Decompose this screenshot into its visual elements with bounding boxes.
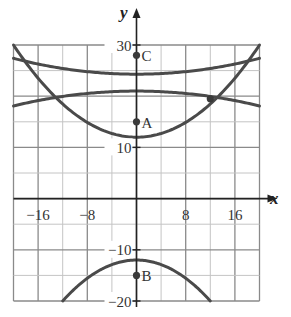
point-label-C: C (142, 48, 152, 64)
y-axis-arrow-icon (133, 8, 141, 18)
x-tick-label: 8 (182, 207, 190, 223)
chart: −16−88163010−10−20 CAB x y (0, 0, 291, 317)
y-tick-label: 10 (117, 140, 132, 156)
y-tick-label: 30 (117, 38, 132, 54)
y-axis-label: y (118, 3, 128, 22)
x-axis-label: x (269, 189, 279, 208)
y-tick-label: −10 (108, 242, 131, 258)
points: CAB (133, 48, 214, 284)
x-tick-label: −8 (79, 207, 95, 223)
point-B (133, 272, 140, 279)
point-C (133, 52, 140, 59)
point-label-B: B (142, 268, 152, 284)
point-label-A: A (142, 115, 153, 131)
point-A (133, 118, 140, 125)
y-tick-label: −20 (108, 294, 131, 310)
x-tick-label: 16 (227, 207, 243, 223)
x-tick-label: −16 (26, 207, 50, 223)
point-intersection (207, 95, 214, 102)
